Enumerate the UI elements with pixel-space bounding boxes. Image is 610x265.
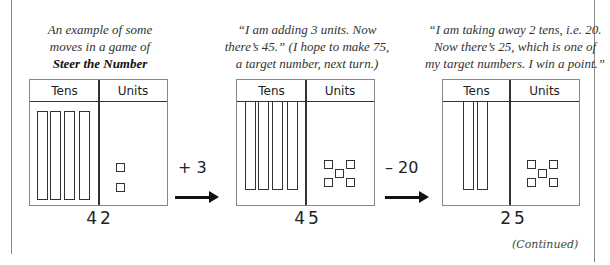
column-divider (98, 80, 100, 205)
continued-note: (Continued) (512, 238, 578, 251)
left-border-line (11, 0, 12, 254)
unit-cube-icon (527, 160, 536, 169)
tens-rod-icon (50, 111, 61, 200)
right-arrow-icon (385, 196, 425, 199)
caption-line: a target number, next turn.) (222, 55, 392, 72)
total-value-1: 42 (80, 208, 120, 228)
caption-line: An example of some (32, 21, 168, 38)
tens-header: Tens (30, 80, 99, 101)
board-header: Tens Units (443, 80, 579, 102)
units-header: Units (510, 80, 579, 101)
game-title: Steer the Number (53, 56, 148, 71)
tens-rod-icon (258, 101, 269, 190)
total-value-3: 25 (494, 208, 534, 228)
unit-cube-icon (549, 160, 558, 169)
tens-rod-icon (477, 101, 488, 190)
unit-cube-icon (116, 163, 125, 172)
operation-label-2: – 20 (385, 158, 418, 177)
tens-rod-icon (37, 111, 48, 200)
units-header: Units (99, 80, 167, 101)
tens-header: Tens (443, 80, 510, 101)
tens-header: Tens (237, 80, 306, 101)
operation-label-1: + 3 (178, 158, 207, 177)
unit-cube-icon (527, 178, 536, 187)
tens-rod-icon (287, 101, 298, 190)
intro-caption: An example of some moves in a game of St… (32, 21, 168, 72)
tens-rod-icon (272, 101, 283, 190)
place-value-board-2: Tens Units (236, 79, 375, 206)
unit-cube-icon (538, 169, 547, 178)
unit-cube-icon (549, 178, 558, 187)
caption-line: my target numbers. I win a point.” (420, 55, 610, 72)
unit-cube-icon (335, 169, 344, 178)
column-divider (509, 80, 511, 205)
units-header: Units (306, 80, 374, 101)
unit-cube-icon (324, 178, 333, 187)
tens-rod-icon (79, 111, 90, 200)
tens-rod-icon (245, 101, 256, 190)
caption-line: “I am taking away 2 tens, i.e. 20. (420, 21, 610, 38)
total-value-2: 45 (288, 208, 328, 228)
tens-rod-icon (463, 101, 474, 190)
caption-line: Now there’s 25, which is one of (420, 38, 610, 55)
right-arrow-icon (175, 196, 215, 199)
caption-line: “I am adding 3 units. Now (222, 21, 392, 38)
caption-line: there’s 45.” (I hope to make 75, (222, 38, 392, 55)
place-value-board-1: Tens Units (29, 79, 168, 206)
step1-caption: “I am adding 3 units. Now there’s 45.” (… (222, 21, 392, 72)
column-divider (305, 80, 307, 205)
place-value-board-3: Tens Units (442, 79, 580, 206)
tens-rod-icon (64, 111, 75, 200)
caption-line: moves in a game of (32, 38, 168, 55)
unit-cube-icon (346, 178, 355, 187)
unit-cube-icon (346, 160, 355, 169)
unit-cube-icon (324, 160, 333, 169)
unit-cube-icon (116, 183, 125, 192)
step2-caption: “I am taking away 2 tens, i.e. 20. Now t… (420, 21, 610, 72)
